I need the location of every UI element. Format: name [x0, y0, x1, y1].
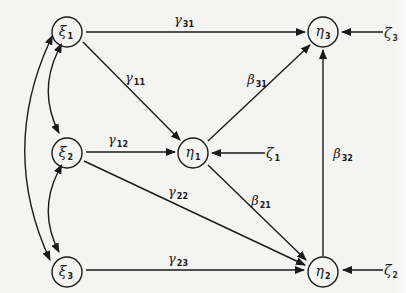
covariance-xi1-xi2 — [48, 51, 59, 133]
label-xi1-sub: 1 — [68, 32, 74, 41]
path-gamma22 — [84, 161, 305, 265]
label-gamma22: γ22 — [168, 184, 188, 201]
label-xi2: ξ2 — [59, 144, 73, 162]
label-beta31: β31 — [247, 72, 267, 89]
label-zeta2-symbol: ζ — [384, 262, 392, 278]
label-beta21-sub: 21 — [260, 201, 271, 210]
label-eta3: η3 — [316, 23, 331, 41]
label-beta31-symbol: β — [247, 72, 255, 87]
label-gamma11-sub: 11 — [134, 78, 145, 87]
label-gamma11: γ11 — [125, 70, 145, 87]
label-gamma22-symbol: γ — [168, 184, 176, 199]
label-beta32-symbol: β — [333, 146, 341, 161]
label-xi2-symbol: ξ — [59, 144, 67, 160]
label-eta2: η2 — [316, 263, 331, 281]
label-xi1-symbol: ξ — [59, 23, 67, 39]
label-gamma23: γ23 — [168, 251, 188, 268]
label-beta32: β32 — [333, 146, 353, 163]
label-eta3-sub: 3 — [325, 32, 331, 41]
label-beta31-sub: 31 — [256, 80, 267, 89]
label-beta32-sub: 32 — [342, 154, 353, 163]
label-gamma12-symbol: γ — [108, 132, 116, 147]
label-eta2-sub: 2 — [325, 272, 331, 281]
path-gamma11 — [83, 42, 180, 140]
label-xi3-symbol: ξ — [59, 263, 67, 279]
label-xi2-sub: 2 — [68, 153, 74, 162]
label-beta21-symbol: β — [251, 193, 259, 208]
label-zeta3-symbol: ζ — [384, 25, 392, 41]
label-gamma31: γ31 — [174, 12, 194, 29]
label-gamma31-sub: 31 — [183, 20, 194, 29]
label-gamma11-symbol: γ — [125, 70, 133, 85]
label-gamma31-symbol: γ — [174, 12, 182, 27]
label-zeta1-sub: 1 — [275, 154, 281, 163]
label-eta1: η1 — [186, 144, 201, 162]
path-beta21 — [208, 165, 306, 260]
label-eta1-sub: 1 — [195, 153, 201, 162]
path-beta31 — [208, 45, 310, 141]
covariance-xi2-xi3 — [48, 172, 59, 252]
label-eta2-symbol: η — [316, 263, 324, 279]
label-xi1: ξ1 — [59, 23, 73, 41]
label-gamma23-sub: 23 — [177, 259, 188, 268]
label-gamma12-sub: 12 — [117, 140, 128, 149]
scan-edge — [394, 0, 406, 293]
covariance-xi1-xi3 — [25, 43, 50, 260]
label-eta3-symbol: η — [316, 23, 324, 39]
label-gamma22-sub: 22 — [177, 192, 188, 201]
label-zeta1-symbol: ζ — [266, 145, 274, 161]
label-gamma23-symbol: γ — [168, 251, 176, 266]
label-xi3-sub: 3 — [68, 272, 74, 281]
label-zeta1: ζ1 — [266, 145, 280, 163]
label-beta21: β21 — [251, 193, 271, 210]
label-xi3: ξ3 — [59, 263, 73, 281]
label-gamma12: γ12 — [108, 132, 128, 149]
label-eta1-symbol: η — [186, 144, 194, 160]
